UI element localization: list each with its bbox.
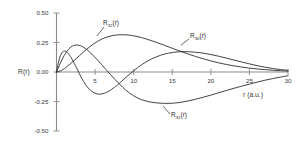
x-tick-label: 30 (285, 77, 292, 84)
y-tick-label: 0.50 (36, 9, 49, 16)
annotation-R32-leader (97, 27, 104, 36)
annotation-R32: R32(r) (97, 19, 119, 36)
y-tick-label: 0.25 (36, 39, 49, 46)
x-tick-label: 15 (169, 77, 176, 84)
figure-radial-wavefunctions: -0.50-0.250.000.250.50 51015202530 R(r) … (0, 0, 297, 144)
annotation-R30-suffix: (r) (200, 32, 206, 40)
annotation-R31-suffix: (r) (181, 111, 187, 119)
annotation-R31-leader (163, 106, 170, 114)
y-tick-label: 0.00 (36, 68, 49, 75)
y-tick-label: -0.50 (34, 127, 49, 134)
x-tick-label: 10 (130, 77, 137, 84)
svg-text:R30(r): R30(r) (190, 32, 206, 41)
annotation-R30-leader (181, 39, 189, 45)
y-axis-title: R(r) (18, 68, 30, 76)
x-axis-title: r (a.u.) (243, 91, 263, 99)
x-tick-label: 20 (207, 77, 214, 84)
svg-text:R32(r): R32(r) (103, 19, 119, 28)
annotation-R31: R31(r) (163, 106, 187, 120)
annotation-R32-suffix: (r) (113, 19, 119, 27)
y-tick-label-group: -0.50-0.250.000.250.50 (34, 9, 49, 134)
x-tick-label: 5 (93, 77, 97, 84)
svg-text:R31(r): R31(r) (171, 111, 187, 120)
y-tick-label: -0.25 (34, 98, 49, 105)
chart-canvas: -0.50-0.250.000.250.50 51015202530 R(r) … (0, 0, 297, 144)
annotation-R30: R30(r) (181, 32, 206, 45)
